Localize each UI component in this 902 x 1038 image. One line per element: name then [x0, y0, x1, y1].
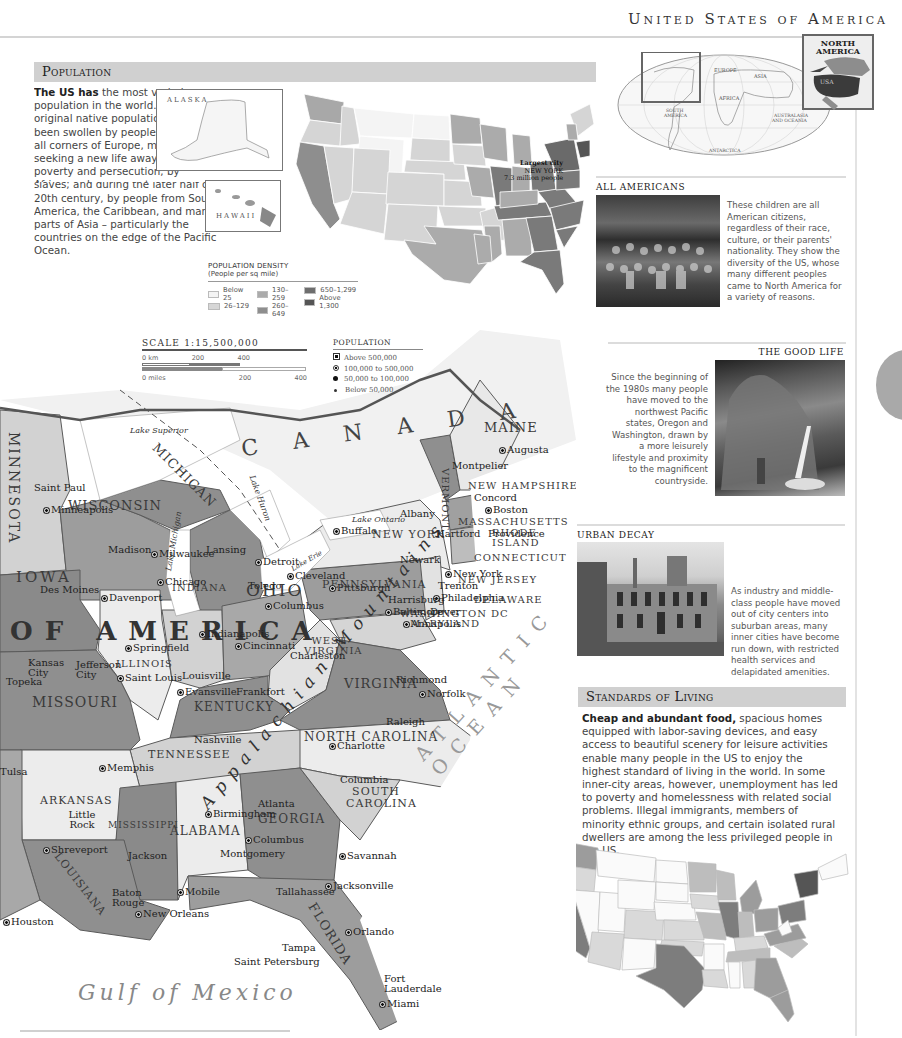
bottom-rule	[20, 1030, 290, 1032]
inset-title-line2: AMERICA	[804, 47, 872, 55]
population-density-legend: POPULATION DENSITY (People per sq mile) …	[208, 262, 358, 318]
city-springfield-il: Springfield	[126, 642, 189, 653]
city-charleston: Charleston	[290, 650, 346, 661]
largest-city-label: Largest city NEW YORK 7.3 million people	[504, 160, 563, 183]
city-columbus-oh: Columbus	[266, 600, 324, 611]
label-south-carolina: SOUTH CAROLINA	[346, 786, 406, 810]
svg-text:ASIA: ASIA	[753, 73, 767, 79]
svg-text:AFRICA: AFRICA	[718, 95, 740, 101]
all-americans-text: These children are all American citizens…	[727, 200, 849, 304]
city-saint-petersburg: Saint Petersburg	[234, 956, 320, 967]
city-buffalo: Buffalo	[334, 525, 377, 536]
population-header: Population	[34, 62, 596, 82]
city-new-orleans: New Orleans	[136, 908, 209, 919]
city-chicago: Chicago	[158, 576, 206, 587]
children-photo	[596, 195, 720, 307]
city-kansas-city: Kansas City	[28, 658, 68, 678]
standards-body: spacious homes equipped with labor-savin…	[582, 712, 838, 856]
city-birmingham: Birmingham	[206, 808, 276, 819]
city-detroit: Detroit	[256, 556, 299, 567]
label-mississippi: MISSISSIPPI	[108, 820, 179, 830]
main-regional-map: SCALE 1:15,500,000 0 km200400 0 miles200…	[0, 320, 576, 1030]
city-albany: Albany	[400, 508, 435, 519]
ruined-building-photo	[577, 542, 724, 656]
city-annapolis: Annapolis	[404, 618, 461, 629]
city-evansville: Evansville	[178, 686, 237, 697]
divider	[577, 524, 845, 526]
city-trenton: Trenton	[438, 580, 478, 591]
standards-text: Cheap and abundant food, spacious homes …	[582, 712, 844, 857]
label-europe: EUROPE	[714, 67, 737, 73]
scale-bar: SCALE 1:15,500,000 0 km200400 0 miles200…	[142, 338, 307, 382]
label-lake-superior: Lake Superior	[130, 426, 188, 435]
city-minneapolis: Minneapolis	[44, 504, 113, 515]
label-connecticut: CONNECTICUT	[474, 552, 567, 563]
city-montgomery: Montgomery	[220, 848, 285, 859]
label-maine: MAINE	[484, 420, 538, 435]
label-new-york: NEW YORK	[372, 528, 445, 541]
alaska-inset-population: ALASKA	[156, 89, 283, 171]
label-missouri: MISSOURI	[32, 694, 118, 710]
label-minnesota: MINNESOTA	[6, 432, 22, 544]
standard-of-living-map	[556, 840, 856, 1030]
standards-header: Standards of Living	[578, 687, 846, 707]
city-nashville: Nashville	[194, 734, 241, 745]
waterfall-photo	[715, 360, 845, 496]
city-fort-lauderdale: Fort Lauderdale	[384, 974, 434, 994]
city-new-york: New York	[446, 568, 502, 579]
city-richmond: Richmond	[396, 674, 447, 685]
city-tampa: Tampa	[282, 942, 316, 953]
svg-text:ANTARCTICA: ANTARCTICA	[708, 148, 741, 153]
city-little-rock: Little Rock	[64, 810, 100, 830]
city-saint-louis: Saint Louis	[118, 672, 182, 683]
city-boston: Boston	[486, 504, 528, 515]
city-savannah: Savannah	[340, 850, 397, 861]
city-hartford: Hartford	[436, 528, 480, 539]
world-locator-map: EUROPE ASIA AFRICA SOUTH AMERICA AUSTRAL…	[614, 52, 834, 158]
city-davenport: Davenport	[102, 592, 162, 603]
city-newark: Newark	[400, 554, 440, 565]
city-frankfort: Frankfort	[236, 686, 285, 697]
city-indianapolis: Indianapolis	[200, 628, 269, 639]
label-arkansas: ARKANSAS	[40, 794, 113, 807]
city-cleveland: Cleveland	[288, 570, 345, 581]
all-americans-heading: ALL AMERICANS	[596, 182, 685, 192]
city-tallahassee: Tallahassee	[276, 886, 335, 897]
city-concord: Concord	[474, 492, 517, 503]
city-norfolk: Norfolk	[420, 688, 466, 699]
city-columbia: Columbia	[340, 774, 388, 785]
city-cincinnati: Cincinnati	[236, 640, 295, 651]
city-jackson: Jackson	[128, 850, 167, 861]
city-louisville: Louisville	[182, 670, 231, 681]
good-life-text: Since the beginning of the 1980s many pe…	[606, 372, 708, 487]
city-raleigh: Raleigh	[386, 716, 425, 727]
urban-decay-heading: URBAN DECAY	[577, 530, 655, 540]
population-title: Population	[42, 64, 111, 79]
city-memphis: Memphis	[100, 762, 154, 773]
population-lead: The US has	[34, 86, 99, 98]
city-dover: Dover	[430, 606, 460, 617]
label-new-hampshire: NEW HAMPSHIRE	[468, 480, 576, 491]
label-alabama: ALABAMA	[170, 824, 241, 838]
page-title: United States of America	[628, 10, 888, 28]
city-toledo: Toledo	[248, 580, 281, 591]
urban-decay-text: As industry and middle-class people have…	[731, 586, 845, 678]
city-augusta: Augusta	[500, 444, 549, 455]
city-lansing: Lansing	[206, 544, 246, 555]
city-tulsa: Tulsa	[0, 766, 27, 777]
city-providence: Providence	[488, 528, 545, 539]
city-charlotte: Charlotte	[330, 740, 385, 751]
svg-text:AMERICA: AMERICA	[663, 113, 688, 118]
north-america-inset: NORTH AMERICA USA	[802, 34, 874, 110]
city-population-legend: POPULATION Above 500,000 100,000 to 500,…	[333, 338, 423, 395]
standards-lead: Cheap and abundant food,	[582, 712, 736, 724]
label-kentucky: KENTUCKY	[194, 700, 274, 714]
svg-text:AND OCEANIA: AND OCEANIA	[771, 118, 808, 123]
hawaii-inset-population: HAWAII	[205, 180, 281, 232]
city-baton-rouge: Baton Rouge	[112, 888, 146, 908]
label-gulf-of-mexico: Gulf of Mexico	[78, 980, 297, 1005]
city-topeka: Topeka	[6, 676, 42, 687]
label-massachusetts: MASSACHUSETTS	[458, 516, 569, 527]
city-montpelier: Montpelier	[452, 460, 508, 471]
label-vermont: VERMONT	[440, 468, 451, 531]
